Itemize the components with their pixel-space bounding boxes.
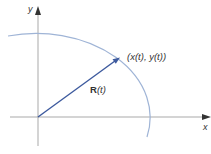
x-axis-label: x: [203, 123, 208, 132]
point-label: (x(t), y(t)): [127, 52, 166, 62]
position-vector: [38, 58, 120, 118]
x-axis-arrow-icon: [202, 114, 211, 120]
vector-label: R(t): [90, 85, 106, 95]
y-axis: [35, 6, 41, 146]
vector-argument: (t): [97, 84, 106, 95]
diagram-canvas: [0, 0, 211, 154]
y-axis-label: y: [28, 5, 33, 14]
y-axis-arrow-icon: [35, 6, 41, 15]
parametric-curve: [8, 33, 150, 137]
vector-symbol: R: [90, 84, 97, 95]
